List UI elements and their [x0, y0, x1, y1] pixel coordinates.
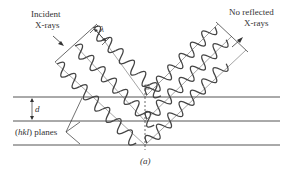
- incident-arrow: [53, 36, 64, 46]
- incident-waves: [53, 24, 165, 148]
- spacing-label: d: [35, 104, 40, 114]
- planes-label: (hkl) planes: [15, 127, 58, 137]
- incident-label-line1: Incident: [31, 9, 61, 19]
- reflected-label-line1: No reflected: [229, 7, 274, 17]
- incident-label-line2: X-rays: [35, 20, 60, 30]
- reflected-waves: [143, 22, 248, 147]
- spacing-marker: [30, 98, 34, 120]
- wavelength-label: λ: [99, 24, 104, 34]
- xray-diffraction-diagram: λ Incident X-rays No reflected X-rays d …: [0, 0, 292, 173]
- reflected-label-line2: X-rays: [244, 18, 269, 28]
- crystal-planes: [13, 97, 280, 145]
- figure-caption: (a): [140, 156, 151, 166]
